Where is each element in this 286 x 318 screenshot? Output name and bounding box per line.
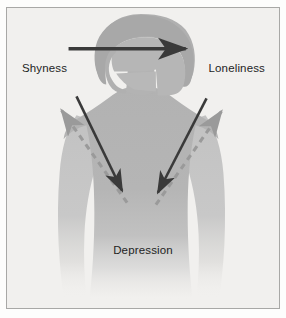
- label-loneliness: Loneliness: [209, 63, 265, 75]
- figure-frame: Shyness Loneliness Depression: [6, 7, 280, 309]
- label-shyness: Shyness: [22, 63, 67, 75]
- label-depression: Depression: [7, 245, 279, 257]
- diagram-canvas: [7, 8, 279, 308]
- figure-root: Shyness Loneliness Depression: [0, 0, 286, 318]
